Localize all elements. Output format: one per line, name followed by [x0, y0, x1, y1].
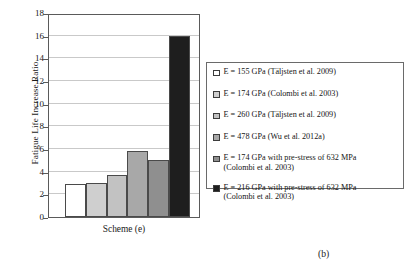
- y-axis-title: Fatigue Life Increase Ratio: [30, 18, 40, 208]
- legend-label: E = 260 GPa (Täljsten et al. 2009): [224, 110, 336, 120]
- y-tick-label: 14: [14, 54, 44, 63]
- y-tick-mark: [43, 218, 48, 219]
- bar-series: [49, 15, 199, 217]
- y-tick-label: 10: [14, 100, 44, 109]
- bar: [148, 160, 169, 217]
- legend-swatch: [213, 185, 220, 192]
- plot-area: [48, 14, 200, 218]
- bar: [65, 184, 86, 217]
- y-tick-label: 16: [14, 32, 44, 41]
- legend-swatch: [213, 91, 220, 98]
- legend: E = 155 GPa (Täljsten et al. 2009)E = 17…: [206, 62, 404, 189]
- bar: [169, 36, 190, 217]
- y-tick-label: 6: [14, 145, 44, 154]
- x-axis-label: Scheme (e): [48, 224, 200, 234]
- y-tick-label: 0: [14, 213, 44, 222]
- legend-item[interactable]: E = 174 GPa with pre-stress of 632 MPa (…: [213, 153, 398, 181]
- legend-swatch: [213, 70, 220, 77]
- legend-label: E = 216 GPa with pre-stress of 632 MPa (…: [224, 183, 357, 202]
- legend-label: E = 155 GPa (Täljsten et al. 2009): [224, 67, 336, 77]
- bar: [86, 183, 107, 217]
- y-tick-label: 12: [14, 77, 44, 86]
- legend-swatch: [213, 113, 220, 120]
- y-tick-label: 18: [14, 9, 44, 18]
- y-tick-label: 4: [14, 168, 44, 177]
- legend-swatch: [213, 134, 220, 141]
- figure-panel: Fatigue Life Increase Ratio 181614121086…: [0, 0, 415, 280]
- legend-item[interactable]: E = 478 GPa (Wu et al. 2012a): [213, 132, 398, 152]
- legend-label: E = 174 GPa (Colombi et al. 2003): [224, 89, 339, 99]
- bar: [107, 175, 128, 217]
- legend-item[interactable]: E = 216 GPa with pre-stress of 632 MPa (…: [213, 183, 398, 211]
- legend-item[interactable]: E = 174 GPa (Colombi et al. 2003): [213, 89, 398, 109]
- legend-item[interactable]: E = 260 GPa (Täljsten et al. 2009): [213, 110, 398, 130]
- legend-label: E = 478 GPa (Wu et al. 2012a): [224, 132, 325, 142]
- legend-item[interactable]: E = 155 GPa (Täljsten et al. 2009): [213, 67, 398, 87]
- y-tick-label: 2: [14, 190, 44, 199]
- y-tick-label: 8: [14, 122, 44, 131]
- bar: [127, 151, 148, 217]
- legend-label: E = 174 GPa with pre-stress of 632 MPa (…: [224, 153, 357, 172]
- legend-swatch: [213, 156, 220, 163]
- subfigure-caption: (b): [318, 248, 329, 259]
